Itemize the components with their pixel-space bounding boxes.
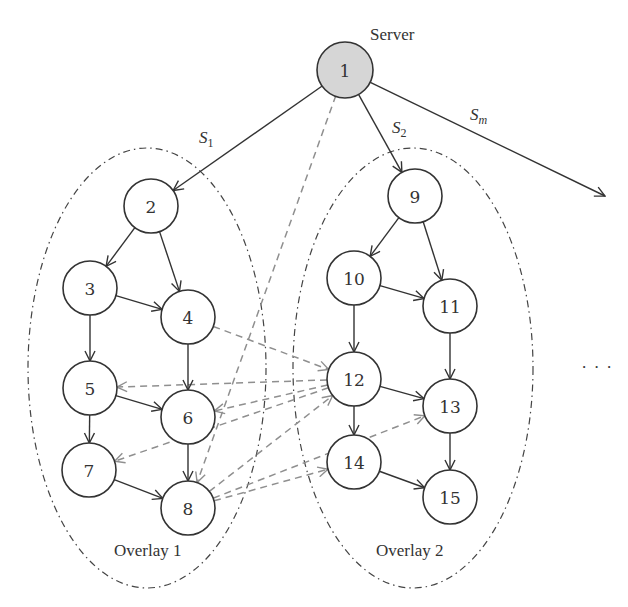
stream-label-sm: Sm <box>470 105 488 127</box>
overlay-2-label: Overlay 2 <box>376 541 444 560</box>
cross-link-4-to-12 <box>213 326 328 369</box>
peer-node-11: 11 <box>423 279 477 333</box>
node-group: 123456789101112131415 <box>62 42 477 535</box>
peer-node-12: 12 <box>327 352 381 406</box>
node-label: 15 <box>439 488 461 508</box>
cross-link-8-to-12 <box>209 396 332 492</box>
node-label: 10 <box>343 269 365 289</box>
peer-node-5: 5 <box>63 361 117 415</box>
node-label: 6 <box>183 408 194 428</box>
peer-node-2: 2 <box>124 179 178 233</box>
node-label: 8 <box>183 499 194 519</box>
peer-node-13: 13 <box>423 379 477 433</box>
node-label: 1 <box>340 61 351 81</box>
node-label: 13 <box>439 397 461 417</box>
node-label: 3 <box>85 279 96 299</box>
node-label: 12 <box>343 370 365 390</box>
edge-14-to-15 <box>379 471 424 488</box>
peer-node-15: 15 <box>423 470 477 524</box>
edge-7-to-8 <box>114 480 163 499</box>
peer-node-8: 8 <box>161 481 215 535</box>
edge-2-to-3 <box>106 228 135 267</box>
overlay-1-label: Overlay 1 <box>114 541 182 560</box>
server-node: 1 <box>317 42 373 98</box>
edge-1-to-2 <box>173 85 323 190</box>
edge-9-to-11 <box>423 222 442 281</box>
edge-12-to-13 <box>380 386 424 398</box>
server-label: Server <box>370 25 415 44</box>
peer-node-3: 3 <box>63 261 117 315</box>
more-overlays-ellipsis: . . . <box>582 353 613 372</box>
node-label: 9 <box>410 187 421 207</box>
cross-link-1-to-8 <box>197 95 336 482</box>
edge-3-to-4 <box>116 296 162 310</box>
node-label: 4 <box>183 308 194 328</box>
edge-2-to-4 <box>160 232 180 292</box>
peer-node-4: 4 <box>161 290 215 344</box>
peer-node-9: 9 <box>388 169 442 223</box>
cross-link-8-to-13 <box>213 416 425 498</box>
node-label: 5 <box>85 379 96 399</box>
peer-node-10: 10 <box>327 251 381 305</box>
edge-9-to-10 <box>370 218 399 257</box>
node-label: 14 <box>343 453 365 473</box>
stream-label-s2: S2 <box>392 118 407 140</box>
edge-5-to-6 <box>116 396 162 410</box>
node-label: 11 <box>439 297 461 317</box>
peer-node-7: 7 <box>62 443 116 497</box>
edge-10-to-11 <box>380 286 424 299</box>
cross-link-12-to-5 <box>117 380 327 387</box>
stream-label-s1: S1 <box>199 128 214 150</box>
overlay-network-diagram: 123456789101112131415 Server S1 S2 Sm Ov… <box>0 0 628 607</box>
peer-node-14: 14 <box>327 435 381 489</box>
node-label: 2 <box>146 197 157 217</box>
node-label: 7 <box>84 461 95 481</box>
cross-link-group <box>115 95 425 500</box>
peer-node-6: 6 <box>161 390 215 444</box>
